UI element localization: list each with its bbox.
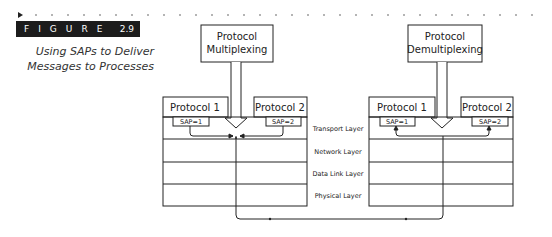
right-demux-title-1: Protocol (425, 31, 465, 42)
left-sap-2-label: SAP=2 (272, 118, 294, 126)
physical-link (236, 215, 443, 219)
left-sap-1-label: SAP=1 (180, 118, 202, 126)
left-protocol-2-label: Protocol 2 (255, 102, 305, 113)
right-protocol-2-label: Protocol 2 (462, 102, 512, 113)
left-mux-title-1: Protocol (217, 31, 257, 42)
left-sap-1-link (190, 126, 233, 136)
right-protocol-1-label: Protocol 1 (377, 102, 427, 113)
layer-label-data-link: Data Link Layer (312, 170, 363, 178)
left-mux-arrow (225, 62, 247, 128)
left-protocol-1-label: Protocol 1 (170, 102, 220, 113)
left-mux-title-2: Multiplexing (207, 44, 268, 55)
layer-label-transport: Transport Layer (312, 125, 364, 133)
sap-diagram: Protocol Multiplexing Protocol 1 Protoco… (0, 0, 552, 237)
layer-label-network: Network Layer (314, 148, 362, 156)
right-demux-title-2: Demultiplexing (407, 44, 483, 55)
right-sap-links (396, 129, 489, 136)
right-demux-arrow (431, 62, 453, 128)
right-sap-1-label: SAP=1 (386, 118, 408, 126)
right-sap-2-label: SAP=2 (479, 118, 501, 126)
layer-label-physical: Physical Layer (315, 192, 362, 200)
left-sap-2-link (240, 126, 283, 136)
